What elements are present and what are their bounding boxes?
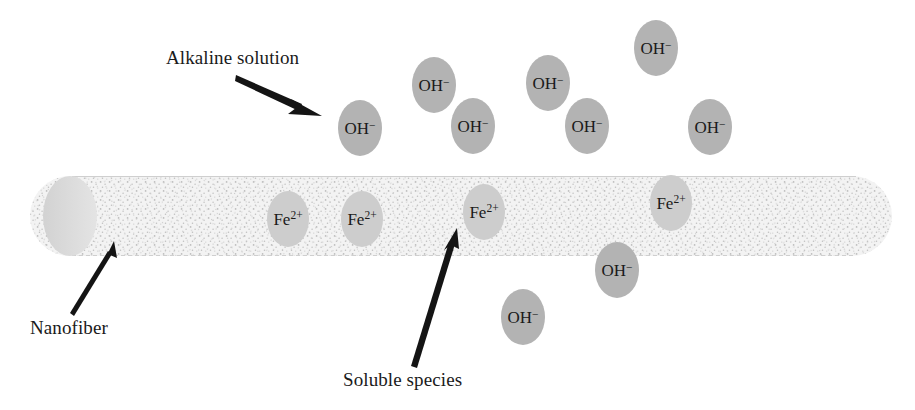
soluble-species-label: Soluble species [343, 370, 462, 389]
hydroxide-ion: OH− [595, 242, 639, 298]
iron-ion: Fe2+ [650, 175, 692, 231]
nanofiber-body-speckle [30, 176, 892, 256]
iron-ion: Fe2+ [341, 191, 383, 247]
nanofiber-label: Nanofiber [30, 318, 108, 337]
hydroxide-ion: OH− [338, 100, 382, 156]
hydroxide-ion: OH− [501, 289, 545, 345]
hydroxide-ion: OH− [526, 55, 570, 111]
iron-ion: Fe2+ [463, 184, 505, 240]
nanofiber [30, 176, 892, 256]
alkaline-solution-label: Alkaline solution [166, 48, 299, 67]
figure-canvas: Fe2+ Fe2+ Fe2+ Fe2+ OH− OH− [0, 0, 915, 410]
alkaline-solution-arrow-shaft [235, 75, 302, 111]
hydroxide-ion: OH− [634, 20, 678, 76]
hydroxide-ion: OH− [565, 98, 609, 154]
nanofiber-arrow-shaft [70, 251, 112, 316]
iron-ion: Fe2+ [267, 191, 309, 247]
hydroxide-ion: OH− [412, 57, 456, 113]
soluble-species-arrow-shaft [411, 242, 455, 368]
nanofiber-left-cap [43, 176, 97, 256]
diagram-svg: Fe2+ Fe2+ Fe2+ Fe2+ OH− OH− [0, 0, 915, 410]
hydroxide-ion: OH− [451, 98, 495, 154]
hydroxide-ion: OH− [688, 99, 732, 155]
alkaline-solution-arrow [235, 75, 322, 116]
